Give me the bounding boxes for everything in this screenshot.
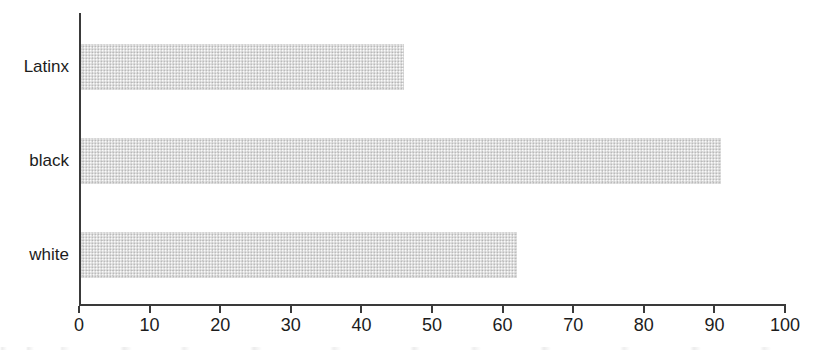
x-axis-tick <box>290 306 292 313</box>
x-axis-tick-label: 80 <box>614 315 674 336</box>
y-axis-tick-label-text: Latinx <box>24 57 69 77</box>
x-axis-tick-label: 50 <box>402 315 462 336</box>
x-axis-tick <box>784 306 786 313</box>
y-axis-tick-label-text: white <box>29 245 69 265</box>
scan-artifact <box>0 344 824 354</box>
bar-chart: Latinx black white 010203040506070809010… <box>0 0 824 357</box>
x-axis-tick <box>149 306 151 313</box>
bar-white <box>81 232 517 278</box>
y-axis-tick-label-white: white <box>0 232 69 278</box>
x-axis-tick-label: 0 <box>49 315 109 336</box>
x-axis-tick-label: 30 <box>261 315 321 336</box>
x-axis-tick-label: 10 <box>120 315 180 336</box>
x-axis-tick-label: 70 <box>543 315 603 336</box>
x-axis-tick-label: 60 <box>473 315 533 336</box>
bar-latinx <box>81 44 404 90</box>
x-axis-tick <box>360 306 362 313</box>
x-axis-tick-label: 40 <box>331 315 391 336</box>
x-axis-tick-label: 100 <box>755 315 815 336</box>
x-axis-tick <box>431 306 433 313</box>
x-axis-tick <box>78 306 80 313</box>
plot-area: Latinx black white 010203040506070809010… <box>0 0 824 357</box>
x-axis-tick <box>502 306 504 313</box>
x-axis-tick <box>713 306 715 313</box>
x-axis-tick-label: 20 <box>190 315 250 336</box>
y-axis-tick-label-text: black <box>29 151 69 171</box>
x-axis-tick-label: 90 <box>684 315 744 336</box>
bar-black <box>81 138 721 184</box>
x-axis-tick <box>572 306 574 313</box>
x-axis-tick <box>219 306 221 313</box>
y-axis-tick-label-latinx: Latinx <box>0 44 69 90</box>
y-axis-tick-label-black: black <box>0 138 69 184</box>
x-axis-tick <box>643 306 645 313</box>
